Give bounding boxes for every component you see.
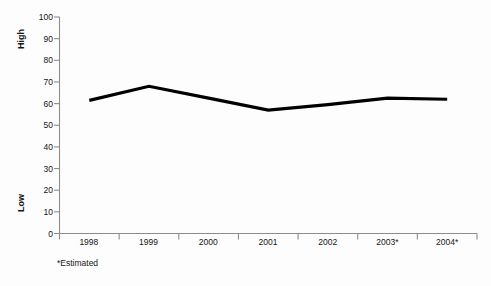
x-axis-tick-labels: 199819992000200120022003*2004* [59,238,477,254]
x-tick-label: 1999 [119,238,179,254]
chart-container: High Low 0102030405060708090100 19981999… [0,0,491,286]
x-tick-label: 2001 [238,238,298,254]
x-tick-label: 2003* [358,238,418,254]
x-tick-label: 2004* [417,238,477,254]
x-tick-label: 2002 [298,238,358,254]
x-tick-label: 2000 [178,238,238,254]
x-tick-label: 1998 [59,238,119,254]
data-series-line [89,86,447,110]
footnote-estimated: *Estimated [57,258,98,268]
